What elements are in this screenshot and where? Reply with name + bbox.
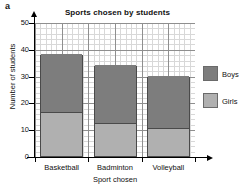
y-tick-50 (29, 23, 35, 24)
bar-divider-badminton (95, 123, 136, 124)
x-tick-0 (35, 157, 36, 162)
y-axis-line (34, 16, 35, 158)
question-label: a (5, 1, 10, 11)
bar-segment-volleyball-boys (148, 76, 189, 130)
y-tick-label-0: 0 (3, 153, 29, 161)
x-axis-arrow (207, 155, 213, 161)
legend-swatch-girls (203, 93, 218, 108)
y-tick-20 (29, 103, 35, 104)
y-tick-40 (29, 50, 35, 51)
x-tick-1 (88, 157, 89, 162)
x-category-label-badminton: Badminton (88, 163, 141, 172)
bar-divider-volleyball (148, 128, 189, 129)
y-axis-arrow (31, 11, 37, 17)
bar-badminton (94, 66, 137, 157)
bar-divider-basketball (41, 112, 82, 113)
legend-label-girls: Girls (222, 97, 237, 106)
chart-title: Sports chosen by students (40, 8, 195, 17)
x-tick-2 (142, 157, 143, 162)
y-tick-10 (29, 130, 35, 131)
plot-area (35, 23, 195, 157)
x-axis-title: Sport chosen (35, 175, 195, 184)
x-axis-line (27, 157, 208, 158)
chart-figure: a Sports chosen by students 01020304050 … (0, 0, 239, 186)
bar-segment-badminton-girls (95, 124, 136, 156)
bar-segment-basketball-boys (41, 54, 82, 113)
bar-segment-basketball-girls (41, 113, 82, 156)
y-tick-30 (29, 77, 35, 78)
y-tick-label-10: 10 (3, 126, 29, 134)
y-axis-title: Number of students (8, 37, 17, 117)
x-category-label-basketball: Basketball (35, 163, 88, 172)
y-tick-label-50: 50 (3, 19, 29, 27)
x-category-label-volleyball: Volleyball (142, 163, 195, 172)
legend-swatch-boys (203, 66, 218, 81)
bar-segment-volleyball-girls (148, 129, 189, 156)
bar-segment-badminton-boys (95, 65, 136, 124)
bar-volleyball (147, 77, 190, 157)
x-tick-3 (195, 157, 196, 162)
bar-basketball (40, 55, 83, 157)
legend-label-boys: Boys (222, 70, 239, 79)
